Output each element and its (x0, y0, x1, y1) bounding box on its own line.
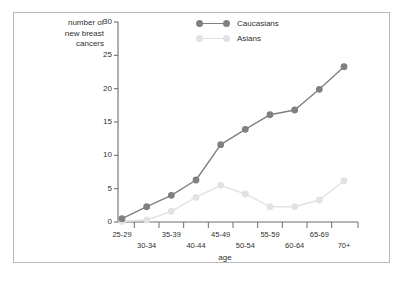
data-point (316, 86, 323, 93)
data-point (193, 177, 200, 184)
y-tick-label: 20 (92, 84, 112, 93)
data-point (242, 191, 249, 198)
data-point (267, 111, 274, 118)
chart-plot-area: number of new breast cancers age Caucasi… (0, 0, 412, 283)
data-point (168, 208, 175, 215)
x-tick-label: 50-54 (225, 241, 265, 250)
data-point (242, 126, 249, 133)
data-point (217, 141, 224, 148)
data-point (143, 217, 150, 224)
x-tick-label: 60-64 (275, 241, 315, 250)
data-point (168, 192, 175, 199)
data-point (316, 197, 323, 204)
x-tick-label: 40-44 (176, 241, 216, 250)
x-tick-label: 35-39 (151, 230, 191, 239)
x-tick-label: 65-69 (299, 230, 339, 239)
data-point (193, 194, 200, 201)
data-point (341, 63, 348, 70)
series-caucasians (119, 63, 348, 222)
data-point (291, 203, 298, 210)
y-tick-label: 15 (92, 117, 112, 126)
y-tick-label: 30 (92, 17, 112, 26)
x-tick-label: 55-59 (250, 230, 290, 239)
x-tick-label: 45-49 (201, 230, 241, 239)
data-point (341, 177, 348, 184)
data-point (267, 203, 274, 210)
y-tick-label: 25 (92, 50, 112, 59)
x-tick-label: 30-34 (127, 241, 167, 250)
data-point (119, 215, 126, 222)
x-tick-label: 25-29 (102, 230, 142, 239)
y-tick-label: 5 (92, 184, 112, 193)
y-tick-label: 0 (92, 217, 112, 226)
data-point (143, 203, 150, 210)
series-asians (119, 177, 348, 224)
data-point (291, 107, 298, 114)
x-tick-label: 70+ (324, 241, 364, 250)
y-tick-label: 10 (92, 150, 112, 159)
data-point (217, 182, 224, 189)
